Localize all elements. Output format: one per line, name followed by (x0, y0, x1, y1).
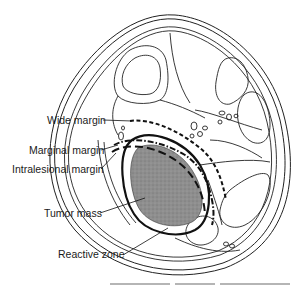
label-intralesional-margin: Intralesional margin (12, 163, 104, 175)
label-reactive-zone: Reactive zone (58, 248, 125, 260)
tumor-mass (131, 145, 203, 226)
label-tumor-mass: Tumor mass (44, 207, 102, 219)
cropped-caption-fragment (110, 283, 290, 285)
limb-cross-section-figure: Wide margin Marginal margin Intralesiona… (0, 0, 308, 287)
label-wide-margin: Wide margin (47, 114, 106, 126)
label-marginal-margin: Marginal margin (29, 144, 104, 156)
